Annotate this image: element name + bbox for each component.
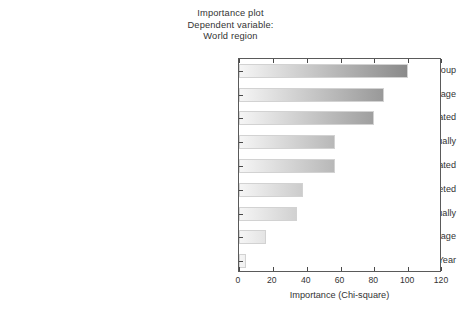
- y-axis-tick: [239, 95, 243, 96]
- y-axis-tick: [239, 190, 243, 191]
- bar-row: [239, 130, 440, 154]
- bar-row: [239, 225, 440, 249]
- x-axis-tick: [239, 267, 240, 271]
- bar-row: [239, 178, 440, 202]
- x-axis-tick: [273, 267, 274, 271]
- bar: [239, 111, 374, 125]
- chart-title-line-2: Dependent variable:: [0, 20, 461, 32]
- x-axis-tick: [374, 267, 375, 271]
- x-axis-tick: [307, 59, 308, 63]
- importance-plot-screenshot: Importance plot Dependent variable: Worl…: [0, 0, 461, 325]
- bar: [239, 64, 408, 78]
- x-axis-tick: [441, 267, 442, 271]
- y-axis-tick: [239, 261, 243, 262]
- bar: [239, 88, 384, 102]
- bar-row: [239, 249, 440, 273]
- x-axis-tick: [341, 59, 342, 63]
- bar-row: [239, 59, 440, 83]
- bar: [239, 135, 335, 149]
- chart-title-line-3: World region: [0, 31, 461, 43]
- bars-layer: [239, 59, 440, 271]
- y-axis-tick: [239, 166, 243, 167]
- bar-row: [239, 202, 440, 226]
- y-axis-tick: [239, 237, 243, 238]
- x-axis-title: Importance (Chi-square): [238, 290, 441, 300]
- x-axis-tick: [374, 59, 375, 63]
- bar: [239, 183, 303, 197]
- bar-row: [239, 154, 440, 178]
- plot-area: [238, 58, 441, 272]
- y-axis-tick: [239, 118, 243, 119]
- y-axis-tick: [239, 214, 243, 215]
- chart-title: Importance plot Dependent variable: Worl…: [0, 8, 461, 43]
- x-axis-tick: [341, 267, 342, 271]
- x-axis-tick: [408, 267, 409, 271]
- bar: [239, 230, 266, 244]
- chart-title-line-1: Importance plot: [0, 8, 461, 20]
- x-axis-tick: [273, 59, 274, 63]
- bar: [239, 159, 335, 173]
- y-axis-tick: [239, 71, 243, 72]
- x-axis-tick: [239, 59, 240, 63]
- x-axis-tick: [441, 59, 442, 63]
- y-axis-tick: [239, 142, 243, 143]
- x-axis-tick-label: 120: [421, 275, 461, 285]
- x-axis-tick: [307, 267, 308, 271]
- bar-row: [239, 83, 440, 107]
- x-axis-tick: [408, 59, 409, 63]
- bar-row: [239, 107, 440, 131]
- bar: [239, 207, 297, 221]
